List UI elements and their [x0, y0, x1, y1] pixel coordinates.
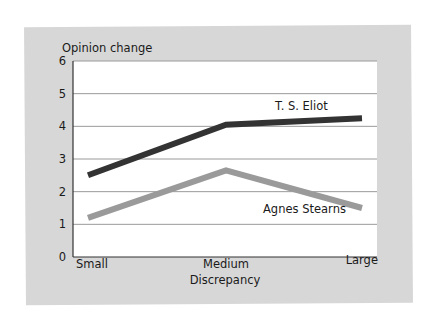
y-tick-label: 6: [59, 54, 66, 68]
y-tick-label: 4: [59, 119, 66, 133]
x-axis-title: Discrepancy: [190, 273, 261, 287]
x-tick-label: Medium: [203, 257, 249, 271]
x-tick-label: Large: [346, 253, 378, 267]
y-tick-label: 5: [59, 87, 66, 101]
series-label-stearns: Agnes Stearns: [263, 202, 346, 216]
line-chart: 0123456SmallMediumLarge Opinion change D…: [0, 0, 442, 320]
y-tick-label: 2: [59, 185, 66, 199]
y-tick-label: 1: [59, 217, 66, 231]
y-axis-title: Opinion change: [62, 41, 152, 55]
y-tick-label: 0: [59, 250, 66, 264]
series-label-eliot: T. S. Eliot: [274, 99, 328, 113]
x-tick-label: Small: [76, 257, 108, 271]
y-tick-label: 3: [59, 152, 66, 166]
